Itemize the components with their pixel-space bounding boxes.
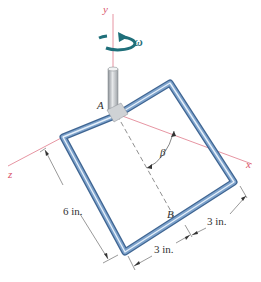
beta-label: β bbox=[159, 146, 166, 158]
ab-center-line bbox=[117, 115, 177, 222]
dimension-3in-bottom-label: 3 in. bbox=[154, 243, 174, 255]
z-axis-label: z bbox=[7, 168, 13, 180]
point-a-label: A bbox=[96, 99, 104, 111]
dimension-3in-right-label: 3 in. bbox=[207, 215, 227, 227]
omega-label: ω bbox=[134, 35, 143, 49]
rotating-pipe-diagram: y ω z x β A B 6 in. bbox=[0, 0, 261, 282]
dimension-6in-label: 6 in. bbox=[63, 205, 83, 217]
x-axis-label: x bbox=[245, 158, 251, 170]
point-b-label: B bbox=[167, 208, 174, 220]
z-axis bbox=[8, 137, 63, 166]
x-axis bbox=[117, 114, 252, 164]
shaft-tee bbox=[107, 67, 128, 122]
angular-velocity-arrow-icon bbox=[99, 32, 135, 50]
y-axis-label: y bbox=[102, 3, 108, 15]
